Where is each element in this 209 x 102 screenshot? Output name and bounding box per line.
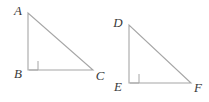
vertex-label-d: D bbox=[112, 15, 123, 30]
vertex-label-c: C bbox=[96, 68, 105, 83]
vertex-label-a: A bbox=[13, 3, 22, 18]
triangle-def-outline bbox=[129, 25, 191, 83]
vertex-label-f: F bbox=[193, 80, 203, 95]
vertex-label-b: B bbox=[14, 66, 22, 81]
right-angle-marker-e bbox=[130, 74, 139, 83]
triangles-diagram: A B C D E F bbox=[0, 0, 209, 102]
geometry-figure: A B C D E F bbox=[0, 0, 209, 102]
right-angle-marker-b bbox=[29, 61, 38, 70]
vertex-label-e: E bbox=[113, 79, 122, 94]
triangle-def: D E F bbox=[112, 15, 203, 95]
triangle-abc: A B C bbox=[13, 3, 105, 83]
